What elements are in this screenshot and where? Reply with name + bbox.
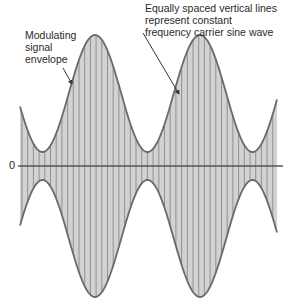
- zero-axis-label: 0: [9, 159, 15, 171]
- carrier-lines-label: Equally spaced vertical lines represent …: [145, 2, 277, 38]
- modulating-signal-envelope-label: Modulating signal envelope: [25, 29, 76, 65]
- carrier-lines-arrow: [143, 33, 179, 94]
- modulating-envelope-arrow: [63, 68, 72, 84]
